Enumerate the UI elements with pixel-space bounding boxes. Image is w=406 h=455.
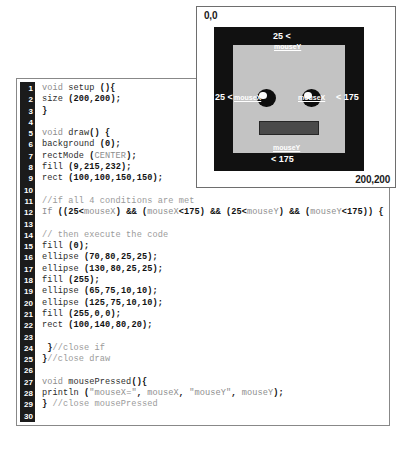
annotation-left-variable: mouseX bbox=[234, 94, 261, 101]
code-line[interactable] bbox=[42, 332, 386, 343]
line-number: 27 bbox=[20, 377, 35, 388]
code-line[interactable] bbox=[42, 365, 386, 376]
line-number: 7 bbox=[20, 151, 35, 162]
line-number: 19 bbox=[20, 286, 35, 297]
line-number: 20 bbox=[20, 298, 35, 309]
sketch-origin-coordinate-label: 0,0 bbox=[204, 10, 217, 21]
line-number: 28 bbox=[20, 388, 35, 399]
line-number: 30 bbox=[20, 411, 35, 422]
code-line[interactable]: ellipse (125,75,10,10); bbox=[42, 298, 386, 309]
line-number: 10 bbox=[20, 185, 35, 196]
line-number: 9 bbox=[20, 173, 35, 184]
code-line[interactable]: fill (255,0,0); bbox=[42, 309, 386, 320]
code-line[interactable]: ellipse (65,75,10,10); bbox=[42, 286, 386, 297]
code-line[interactable]: // then execute the code bbox=[42, 230, 386, 241]
annotation-top-variable: mouseY bbox=[274, 43, 301, 50]
line-number: 1 bbox=[20, 83, 35, 94]
mouth-rectangle bbox=[259, 121, 319, 135]
line-number: 11 bbox=[20, 196, 35, 207]
line-number: 23 bbox=[20, 332, 35, 343]
line-number: 14 bbox=[20, 230, 35, 241]
code-line[interactable] bbox=[42, 219, 386, 230]
line-number: 15 bbox=[20, 241, 35, 252]
code-line[interactable]: //if all 4 conditions are met bbox=[42, 196, 386, 207]
line-number: 26 bbox=[20, 365, 35, 376]
code-line[interactable]: rect (100,140,80,20); bbox=[42, 320, 386, 331]
annotation-right-number: < 175 bbox=[336, 93, 359, 102]
line-number: 4 bbox=[20, 117, 35, 128]
line-number: 24 bbox=[20, 343, 35, 354]
line-number: 22 bbox=[20, 320, 35, 331]
line-number-gutter: 1234567891011121314151617181920212223242… bbox=[20, 82, 36, 422]
line-number: 29 bbox=[20, 399, 35, 410]
sketch-canvas: 25 < mouseY 25 < mouseX mouseX < 175 mou… bbox=[214, 27, 364, 171]
sketch-extent-coordinate-label: 200,200 bbox=[355, 174, 390, 185]
code-line[interactable]: If ((25<mouseX) && (mouseX<175) && (25<m… bbox=[42, 207, 386, 218]
code-line[interactable]: ellipse (70,80,25,25); bbox=[42, 252, 386, 263]
code-line[interactable] bbox=[42, 411, 386, 422]
code-line[interactable]: ellipse (130,80,25,25); bbox=[42, 264, 386, 275]
line-number: 13 bbox=[20, 219, 35, 230]
line-number: 25 bbox=[20, 354, 35, 365]
annotation-bottom-number: < 175 bbox=[271, 155, 294, 164]
annotation-left-number: 25 < bbox=[215, 93, 233, 102]
annotation-top-number: 25 < bbox=[273, 32, 291, 41]
line-number: 12 bbox=[20, 207, 35, 218]
sketch-preview-window: 0,0 25 < mouseY 25 < mouseX mouseX < 175… bbox=[196, 6, 396, 188]
line-number: 17 bbox=[20, 264, 35, 275]
code-line[interactable]: void mousePressed(){ bbox=[42, 377, 386, 388]
line-number: 18 bbox=[20, 275, 35, 286]
annotation-bottom-variable: mouseY bbox=[273, 144, 300, 151]
code-line[interactable]: println ("mouseX=", mouseX, "mouseY", mo… bbox=[42, 388, 386, 399]
line-number: 3 bbox=[20, 106, 35, 117]
line-number: 2 bbox=[20, 94, 35, 105]
line-number: 6 bbox=[20, 139, 35, 150]
annotation-right-variable: mouseX bbox=[298, 94, 325, 101]
line-number: 21 bbox=[20, 309, 35, 320]
line-number: 8 bbox=[20, 162, 35, 173]
code-line[interactable]: } //close mousePressed bbox=[42, 399, 386, 410]
line-number: 16 bbox=[20, 252, 35, 263]
code-line[interactable]: }//close draw bbox=[42, 354, 386, 365]
code-line[interactable]: fill (255); bbox=[42, 275, 386, 286]
line-number: 5 bbox=[20, 128, 35, 139]
code-line[interactable]: fill (0); bbox=[42, 241, 386, 252]
code-line[interactable]: }//close if bbox=[42, 343, 386, 354]
